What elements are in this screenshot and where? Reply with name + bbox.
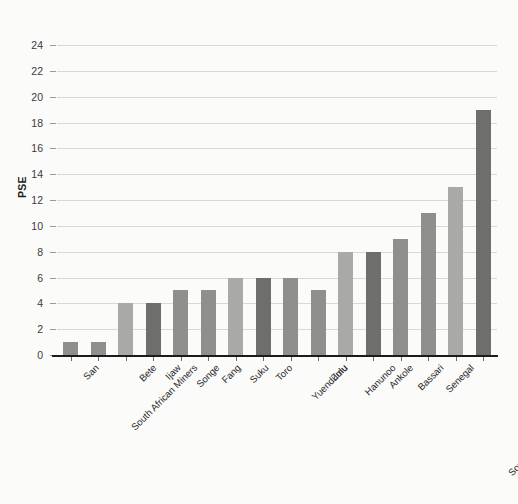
bar[interactable]: [256, 278, 271, 356]
x-tick-mark: [208, 357, 209, 361]
y-tick-mark: [50, 200, 56, 201]
x-tick-label: San: [81, 362, 101, 382]
x-tick-label: South Africans of European descent: [506, 362, 518, 478]
x-tick-mark: [318, 357, 319, 361]
x-tick-label-text: Bete: [137, 362, 159, 384]
x-axis-line: [52, 355, 498, 357]
x-tick-mark: [428, 357, 429, 361]
y-tick-mark: [50, 329, 56, 330]
x-tick-mark: [373, 357, 374, 361]
x-tick-mark: [456, 357, 457, 361]
y-tick-mark: [50, 226, 56, 227]
bar[interactable]: [421, 213, 436, 355]
x-tick-label-text: Senegal: [444, 362, 477, 395]
bar[interactable]: [173, 290, 188, 355]
x-tick-mark: [401, 357, 402, 361]
y-tick-mark: [50, 71, 56, 72]
y-tick-label: 16: [15, 143, 43, 154]
x-tick-label-text: Suku: [247, 362, 270, 385]
y-tick-mark: [50, 278, 56, 279]
x-tick-mark: [71, 357, 72, 361]
bar[interactable]: [366, 252, 381, 355]
x-tick-mark: [181, 357, 182, 361]
y-tick-label: 6: [15, 272, 43, 283]
x-tick-label-text: South Africans of European descent: [506, 362, 518, 478]
bar[interactable]: [338, 252, 353, 355]
y-tick-label: 4: [15, 298, 43, 309]
x-tick-label: Bete: [137, 362, 159, 384]
y-tick-mark: [50, 303, 56, 304]
x-tick-label-text: San: [81, 362, 101, 382]
y-tick-mark: [50, 174, 56, 175]
bar[interactable]: [91, 342, 106, 355]
y-tick-mark: [50, 97, 56, 98]
bar[interactable]: [311, 290, 326, 355]
bar[interactable]: [118, 303, 133, 355]
x-tick-mark: [346, 357, 347, 361]
y-tick-label: 24: [15, 40, 43, 51]
y-tick-label: 20: [15, 91, 43, 102]
x-tick-label: Toro: [274, 362, 295, 383]
x-tick-mark: [263, 357, 264, 361]
y-tick-label: 0: [15, 350, 43, 361]
x-tick-label: Bassari: [415, 362, 445, 392]
y-tick-label: 8: [15, 246, 43, 257]
y-axis-label: PSE: [16, 176, 28, 198]
x-tick-mark: [153, 357, 154, 361]
bar[interactable]: [283, 278, 298, 356]
x-tick-label-text: Toro: [274, 362, 295, 383]
x-tick-mark: [98, 357, 99, 361]
x-tick-mark: [126, 357, 127, 361]
x-tick-label-text: Bassari: [415, 362, 445, 392]
bar[interactable]: [201, 290, 216, 355]
x-tick-label: Suku: [247, 362, 270, 385]
y-tick-label: 22: [15, 66, 43, 77]
y-tick-mark: [50, 123, 56, 124]
bar[interactable]: [228, 278, 243, 356]
bar[interactable]: [63, 342, 78, 355]
y-tick-label: 18: [15, 117, 43, 128]
bar[interactable]: [393, 239, 408, 355]
y-tick-mark: [50, 45, 56, 46]
bar[interactable]: [448, 187, 463, 355]
y-tick-label: 10: [15, 221, 43, 232]
x-tick-label-text: Fang: [220, 362, 243, 385]
chart-figure: 024681012141618202224 PSE SanSouth Afric…: [0, 0, 518, 504]
y-tick-label: 2: [15, 324, 43, 335]
x-tick-mark: [236, 357, 237, 361]
x-tick-label: Fang: [220, 362, 243, 385]
bar[interactable]: [146, 303, 161, 355]
x-tick-mark: [291, 357, 292, 361]
x-tick-label-text: Songe: [194, 362, 221, 389]
bar-series: [57, 45, 497, 355]
x-tick-mark: [483, 357, 484, 361]
x-tick-label: Songe: [194, 362, 221, 389]
y-tick-mark: [50, 148, 56, 149]
y-tick-mark: [50, 252, 56, 253]
x-tick-label: Senegal: [444, 362, 477, 395]
bar[interactable]: [476, 110, 491, 355]
